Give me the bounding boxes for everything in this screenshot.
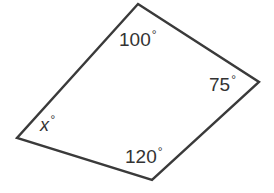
angle-value-bottom: 120 xyxy=(125,146,157,167)
degree-icon: ° xyxy=(152,28,157,42)
angle-label-right: 75° xyxy=(209,74,236,94)
angle-label-bottom: 120° xyxy=(125,146,163,166)
angle-value-right: 75 xyxy=(209,74,230,95)
degree-icon: ° xyxy=(231,73,236,87)
angle-value-top: 100 xyxy=(119,29,151,50)
degree-icon: ° xyxy=(158,145,163,159)
angle-label-top: 100° xyxy=(119,29,157,49)
angle-variable-left: x xyxy=(40,115,49,135)
angle-label-left: x° xyxy=(40,114,55,135)
quadrilateral-angle-diagram: 100° 75° 120° x° xyxy=(0,0,274,193)
degree-icon: ° xyxy=(50,113,55,127)
